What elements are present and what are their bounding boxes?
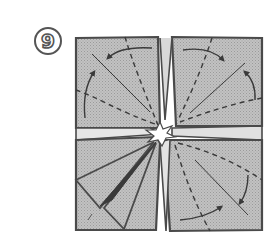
bottom-right-flap — [160, 140, 262, 231]
bottom-left-flap — [76, 137, 160, 230]
top-right-flap — [160, 37, 262, 126]
origami-diagram — [0, 0, 280, 243]
top-left-flap — [76, 37, 160, 128]
